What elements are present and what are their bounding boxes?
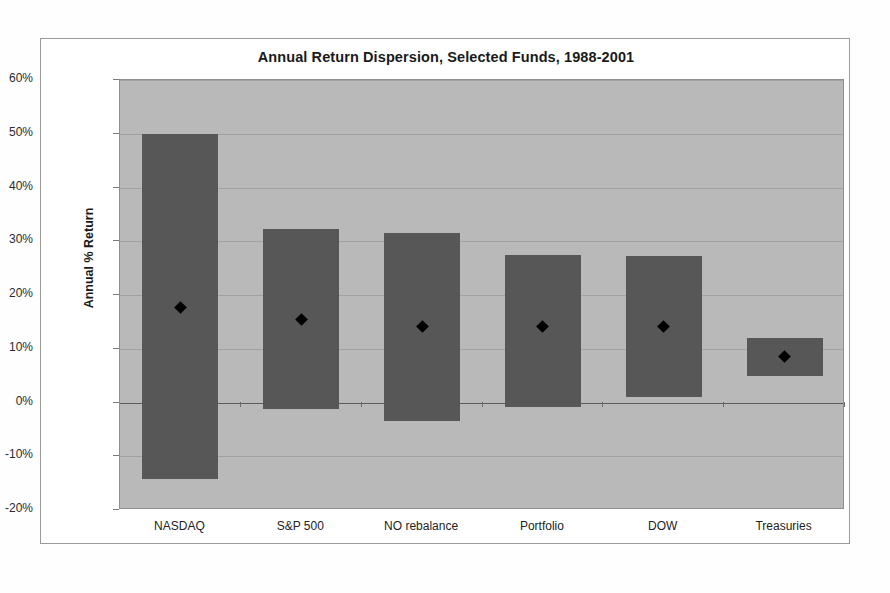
gridline-20 — [120, 295, 843, 296]
x-tick-mark — [723, 402, 724, 407]
y-tick-label: 50% — [0, 125, 33, 139]
x-tick-label-treasuries: Treasuries — [709, 519, 859, 533]
x-tick-mark — [602, 402, 603, 407]
x-tick-mark — [844, 402, 845, 407]
y-tick-label: 20% — [0, 286, 33, 300]
y-axis-title: Annual % Return — [82, 188, 96, 328]
y-tick-label: -10% — [0, 447, 33, 461]
x-tick-mark — [240, 402, 241, 407]
plot-area — [119, 79, 844, 509]
gridline-30 — [120, 241, 843, 242]
y-tick-label: 0% — [0, 394, 33, 408]
chart-frame: Annual Return Dispersion, Selected Funds… — [40, 38, 850, 544]
x-tick-mark — [361, 402, 362, 407]
y-tick-label: 60% — [0, 71, 33, 85]
gridline-10 — [120, 349, 843, 350]
chart-figure: Annual Return Dispersion, Selected Funds… — [0, 0, 890, 593]
y-tick-label: -20% — [0, 501, 33, 515]
gridline-60 — [120, 80, 843, 81]
gridline-50 — [120, 134, 843, 135]
y-tick-label: 40% — [0, 179, 33, 193]
gridline-neg10 — [120, 456, 843, 457]
y-tick-label: 10% — [0, 340, 33, 354]
y-tick-label: 30% — [0, 232, 33, 246]
gridline-40 — [120, 188, 843, 189]
chart-title: Annual Return Dispersion, Selected Funds… — [41, 49, 851, 65]
x-tick-mark — [482, 402, 483, 407]
y-tick-mark — [113, 509, 119, 510]
